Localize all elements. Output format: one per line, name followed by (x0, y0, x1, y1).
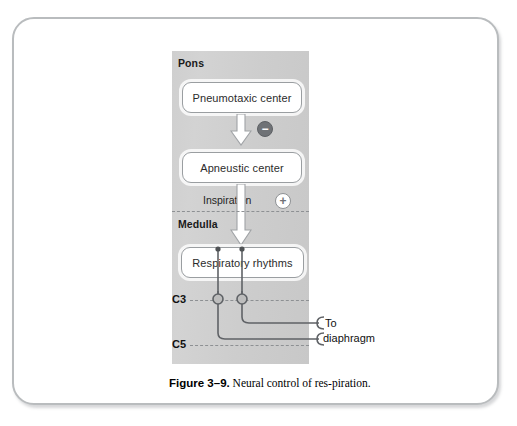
node-pneumotaxic-center-label: Pneumotaxic center (192, 92, 291, 104)
nerve-pathway-group (172, 247, 387, 362)
figure-caption-text: Neural control of res-piration. (230, 377, 371, 389)
node-apneustic-center[interactable]: Apneustic center (182, 152, 302, 183)
boundary-pons-medulla (172, 211, 309, 212)
region-label-medulla: Medulla (178, 218, 218, 230)
plus-symbol: + (279, 195, 286, 207)
excitatory-plus-icon: + (275, 193, 291, 209)
figure-caption-number: Figure 3–9. (169, 377, 230, 389)
figure-page: Pons Pneumotaxic center − Apneustic cent… (0, 0, 517, 426)
figure-caption: Figure 3–9. Neural control of res-pirati… (169, 377, 379, 391)
axon-right-to-c3 (242, 303, 319, 323)
output-label-diaphragm: diaphragm (323, 332, 375, 344)
node-apneustic-center-label: Apneustic center (200, 162, 284, 174)
bouton-right (239, 246, 244, 251)
bouton-left (215, 246, 220, 251)
motor-neuron-soma-left (213, 294, 223, 304)
minus-symbol: − (261, 123, 268, 135)
motor-neuron-soma-right (237, 294, 247, 304)
arrow-apneustic-to-respiratory (230, 184, 252, 246)
arrow-pneumotaxic-to-apneustic (230, 114, 252, 146)
output-label-to: To (325, 317, 337, 329)
node-pneumotaxic-center[interactable]: Pneumotaxic center (182, 82, 302, 113)
figure-frame: Pons Pneumotaxic center − Apneustic cent… (12, 17, 499, 405)
axon-left-to-c5 (218, 303, 319, 339)
region-label-pons: Pons (178, 57, 204, 69)
inhibitory-minus-icon: − (257, 121, 273, 137)
